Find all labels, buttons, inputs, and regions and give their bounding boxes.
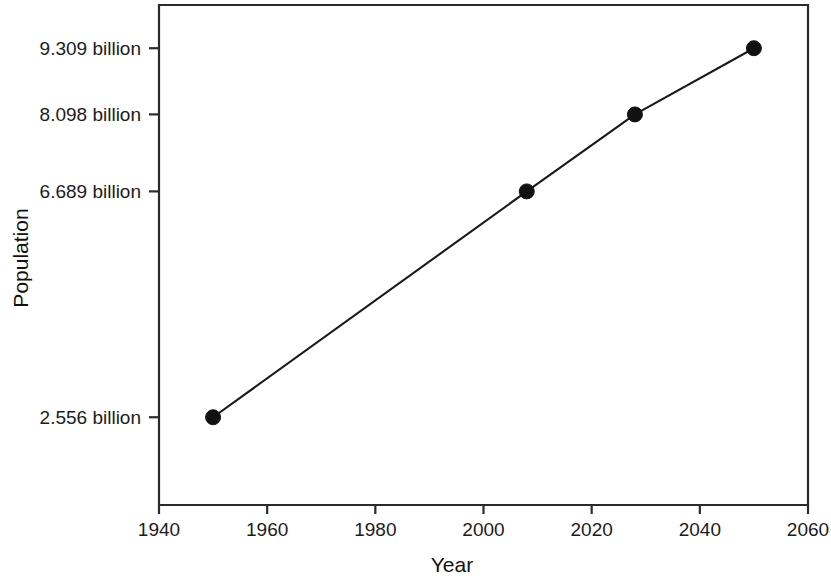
population-line-chart: 1940196019802000202020402060 2.556 billi… <box>0 0 831 583</box>
x-axis-title: Year <box>431 553 473 576</box>
data-point-2050 <box>746 41 761 56</box>
x-tick-label-1960: 1960 <box>246 519 288 540</box>
x-tick-label-2040: 2040 <box>679 519 721 540</box>
x-tick-label-2000: 2000 <box>462 519 504 540</box>
chart-canvas: 1940196019802000202020402060 2.556 billi… <box>0 0 831 583</box>
data-point-2028 <box>627 107 642 122</box>
x-tick-label-1980: 1980 <box>354 519 396 540</box>
y-tick-label-6.689: 6.689 billion <box>40 181 141 202</box>
y-tick-label-2.556: 2.556 billion <box>40 407 141 428</box>
chart-background <box>0 0 831 583</box>
y-tick-label-8.098: 8.098 billion <box>40 104 141 125</box>
x-tick-label-1940: 1940 <box>138 519 180 540</box>
y-tick-label-9.309: 9.309 billion <box>40 38 141 59</box>
x-tick-label-2060: 2060 <box>787 519 829 540</box>
data-point-1950 <box>206 410 221 425</box>
x-tick-label-2020: 2020 <box>571 519 613 540</box>
y-axis-title: Population <box>9 208 32 307</box>
data-point-2008 <box>519 184 534 199</box>
